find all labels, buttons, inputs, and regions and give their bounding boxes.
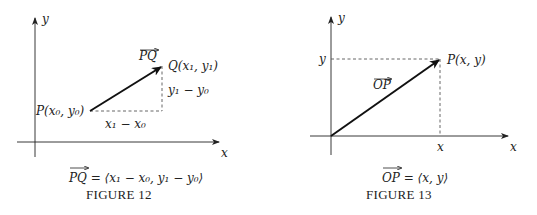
vector-pq-label: PQ: [138, 49, 157, 63]
vector-pq-arrow: [90, 67, 161, 111]
vector-op-arrow: [331, 60, 439, 136]
figure-12-caption: FIGURE 12: [86, 187, 152, 202]
vector-op-label: OP: [373, 78, 392, 92]
y-axis-label: y: [337, 11, 345, 25]
point-p-label: P(x, y): [446, 53, 486, 67]
figure-13: y x y x OP P(x, y) OP = ⟨x, y⟩ FIGURE 13: [310, 11, 517, 202]
point-p-label: P(x₀, y₀): [35, 104, 85, 118]
tick-x-label: x: [437, 140, 444, 154]
y-axis-label: y: [41, 12, 49, 26]
x-axis-label: x: [510, 140, 517, 154]
equation-12: PQ = ⟨x₁ − x₀, y₁ − y₀⟩: [68, 171, 203, 185]
dy-label: y₁ − y₀: [167, 83, 209, 97]
figure-13-caption: FIGURE 13: [366, 187, 432, 202]
dx-label: x₁ − x₀: [105, 117, 146, 131]
figure-12: y x PQ Q(x₁, y₁) P(x₀, y₀) y₁ − y₀ x₁ − …: [17, 12, 228, 202]
equation-13: OP = ⟨x, y⟩: [382, 171, 448, 185]
x-axis-label: x: [221, 146, 228, 160]
point-q-label: Q(x₁, y₁): [168, 59, 218, 73]
tick-y-label: y: [318, 52, 326, 66]
